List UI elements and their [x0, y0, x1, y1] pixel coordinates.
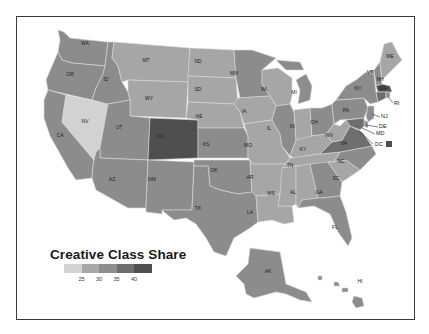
- label-co: CO: [156, 133, 164, 139]
- state-hi[interactable]: [352, 296, 364, 308]
- label-wi: WI: [261, 86, 267, 92]
- legend-tick-25: 25: [78, 276, 84, 282]
- state-nm[interactable]: [146, 160, 194, 214]
- label-ca: CA: [57, 132, 65, 138]
- label-ks: KS: [203, 141, 210, 147]
- label-vt: VT: [367, 69, 373, 75]
- label-ne: NE: [196, 113, 204, 119]
- label-nm: NM: [148, 176, 156, 182]
- legend-swatch-4: [117, 264, 135, 273]
- label-sc: SC: [333, 175, 340, 181]
- label-mt: MT: [142, 57, 149, 63]
- label-id: ID: [104, 76, 109, 82]
- label-nh: NH: [376, 76, 384, 82]
- label-mi: MI: [291, 89, 297, 95]
- state-ct[interactable]: [376, 92, 386, 102]
- label-ms: MS: [267, 190, 275, 196]
- legend-swatch-3: [99, 264, 117, 273]
- state-me[interactable]: [380, 42, 402, 80]
- state-ak[interactable]: [236, 248, 312, 302]
- state-hi-islands-3[interactable]: [342, 288, 348, 292]
- state-wa[interactable]: [58, 30, 108, 66]
- state-mi-up[interactable]: [276, 60, 304, 70]
- label-va: VA: [341, 140, 348, 146]
- state-wy[interactable]: [128, 80, 188, 118]
- label-dc: DC: [375, 141, 383, 147]
- label-nc: NC: [337, 158, 345, 164]
- label-ny: NY: [355, 85, 363, 91]
- label-ar: AR: [247, 174, 254, 180]
- label-mn: MN: [230, 70, 238, 76]
- label-sd: SD: [195, 86, 202, 92]
- label-pa: PA: [343, 107, 350, 113]
- label-de: DE: [379, 123, 387, 129]
- label-in: IN: [290, 123, 295, 129]
- label-ma: MA: [379, 85, 387, 91]
- legend-title: Creative Class Share: [50, 247, 186, 262]
- label-hi: HI: [358, 278, 363, 284]
- state-fl[interactable]: [298, 196, 352, 246]
- label-ga: GA: [315, 189, 323, 195]
- legend-tick-35: 35: [113, 276, 119, 282]
- label-ri: RI: [394, 100, 400, 106]
- swatch-dc[interactable]: [386, 141, 392, 147]
- label-ky: KY: [300, 146, 307, 152]
- label-il: IL: [267, 125, 271, 131]
- label-ut: UT: [116, 124, 123, 130]
- legend-swatch-5: [134, 264, 152, 273]
- legend-color-bar: [64, 264, 152, 273]
- label-mo: MO: [244, 142, 252, 148]
- legend-tick-40: 40: [131, 276, 137, 282]
- label-nv: NV: [82, 118, 90, 124]
- state-mi[interactable]: [296, 74, 312, 104]
- label-ak: AK: [265, 268, 272, 274]
- state-de[interactable]: [364, 120, 368, 128]
- legend-swatch-2: [82, 264, 100, 273]
- label-al: AL: [290, 189, 296, 195]
- legend-ticks: 25 30 35 40: [64, 276, 152, 284]
- label-az: AZ: [109, 176, 115, 182]
- label-wv: WV: [325, 132, 334, 138]
- leader-md: [362, 128, 375, 134]
- legend-swatch-1: [64, 264, 82, 273]
- label-tn: TN: [287, 162, 294, 168]
- label-nj: NJ: [381, 113, 388, 119]
- label-wy: WY: [145, 95, 154, 101]
- leader-ri: [388, 97, 393, 103]
- label-me: ME: [386, 53, 394, 59]
- label-la: LA: [247, 209, 254, 215]
- label-md: MD: [376, 130, 385, 136]
- state-hi-islands[interactable]: [318, 276, 322, 280]
- label-ok: OK: [210, 167, 218, 173]
- state-mt[interactable]: [112, 42, 190, 82]
- label-oh: OH: [310, 119, 318, 125]
- label-or: OR: [66, 71, 74, 77]
- label-fl: FL: [332, 224, 338, 230]
- label-ia: IA: [242, 108, 247, 114]
- state-hi-islands-2[interactable]: [334, 282, 340, 286]
- label-nd: ND: [194, 58, 202, 64]
- label-wa: WA: [81, 40, 90, 46]
- legend-tick-30: 30: [96, 276, 102, 282]
- label-tx: TX: [195, 205, 202, 211]
